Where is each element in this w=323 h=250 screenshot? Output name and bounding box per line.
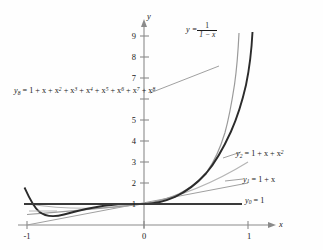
label-y0-series: y0 = 1 [245,197,264,206]
fraction-1-over-1-minus-x: 11 − x [197,22,217,38]
x-axis [18,221,276,229]
label-y8-t7: + x [124,86,137,95]
label-y8-exp8: 8 [152,86,155,92]
label-y0-subscript: 0 [249,199,252,205]
label-y8-series: y8 = 1 + x + x2 + x3 + x4 + x5 + x6 + x7… [14,87,155,96]
y-axis [140,19,149,228]
y-tick-2: 2 [125,179,136,188]
label-y1-subscript: 1 [247,178,250,184]
y-tick-9: 9 [125,32,136,41]
label-y2-body: = 1 + x + x [244,149,280,158]
plot-canvas [0,0,323,250]
x-axis-label: x [279,220,283,229]
label-y8-t6: + x [108,86,121,95]
leader-lines [150,66,243,181]
label-y1-body: = 1 + x [251,175,275,184]
x-tick-1: 1 [241,232,257,241]
label-y1-series: y1 = 1 + x [243,176,275,185]
label-y8-t3: + x [62,86,75,95]
label-y2-exp: 2 [281,149,284,155]
label-y8-t4: + x [77,86,90,95]
label-reciprocal-function: y =11 − x [186,22,217,38]
fraction-denominator: 1 − x [197,31,217,39]
label-y2-series: y2 = 1 + x + x2 [236,150,284,159]
x-tick-neg1: -1 [18,232,36,241]
label-y8-t8: + x [140,86,153,95]
taylor-series-figure: 9 8 7 5 4 3 2 1 -1 0 1 y x y =11 − x y8 … [0,0,323,250]
y-tick-8: 8 [125,53,136,62]
label-y0-body: = 1 [253,196,264,205]
label-y8-subscript: 8 [18,90,21,96]
label-y8-t5: + x [93,86,106,95]
y-tick-7: 7 [125,74,136,83]
curve-y2-path [27,162,248,208]
y-tick-1: 1 [125,200,136,209]
y-tick-5: 5 [125,116,136,125]
label-reciprocal-lhs: y = [186,25,197,34]
y-tick-4: 4 [125,137,136,146]
x-tick-0: 0 [136,232,152,241]
label-y8-body: = 1 + x + x [22,86,58,95]
y-axis-label: y [147,12,151,21]
y-tick-3: 3 [125,158,136,167]
label-y2-subscript: 2 [240,153,243,159]
